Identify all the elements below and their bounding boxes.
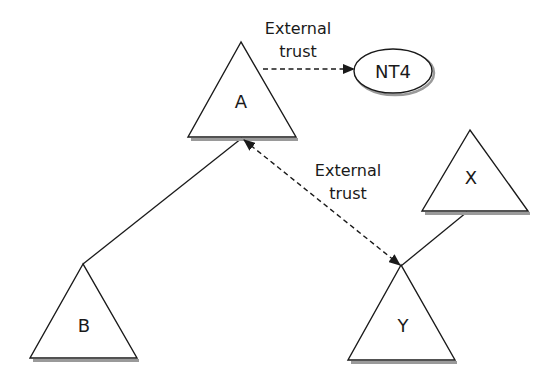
node-label-a: A	[235, 91, 248, 112]
trust-diagram: A B X Y NT4 External trust External trus…	[0, 0, 558, 389]
node-label-y: Y	[397, 315, 410, 336]
edge-label-a-nt4-line2: trust	[279, 42, 317, 61]
node-label-x: X	[465, 167, 477, 188]
triangle-y-shape	[348, 265, 455, 360]
link-a-b	[83, 138, 242, 264]
edge-label-a-nt4-line1: External	[265, 19, 331, 38]
link-x-y	[401, 212, 467, 266]
node-label-b: B	[78, 315, 90, 336]
nt4-domain[interactable]: NT4	[354, 49, 434, 95]
triangle-b-shape	[30, 264, 137, 358]
edge-label-a-y-line2: trust	[329, 184, 367, 203]
domain-tree-y[interactable]: Y	[348, 265, 457, 363]
node-label-nt4: NT4	[375, 61, 411, 82]
external-trust-arrow-a-y	[244, 140, 400, 265]
domain-tree-b[interactable]: B	[30, 264, 139, 361]
domain-tree-x[interactable]: X	[422, 130, 530, 214]
edge-label-a-y-line1: External	[315, 161, 381, 180]
